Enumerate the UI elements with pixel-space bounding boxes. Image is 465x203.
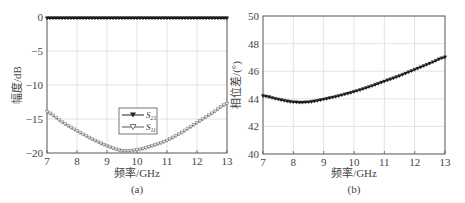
y-tick-label: 46 [248,65,260,77]
panel-a-x-axis-label: 频率/GHz [114,166,160,179]
x-tick-label: 8 [74,155,80,167]
y-tick-label: 48 [248,38,260,50]
x-tick-label: 13 [222,155,234,167]
panel-b-caption: (b) [348,183,361,196]
x-tick-label: 11 [379,156,390,168]
y-tick-label: −5 [31,45,43,57]
y-tick-label: −10 [26,79,44,91]
panel-a-x-tick-labels: 78910111213 [44,155,233,167]
x-tick-label: 8 [291,156,297,168]
panel-a-caption: (a) [131,183,144,196]
x-tick-label: 11 [162,155,173,167]
y-tick-label: 0 [38,11,44,23]
y-tick-label: 42 [248,120,259,132]
panel-a-y-tick-labels: 0−5−10−15−20 [26,11,44,159]
panel-a-magnitude-chart: 78910111213 0−5−10−15−20 频率/GHz (a) 幅度/d… [10,11,233,196]
y-tick-label: 50 [248,10,260,22]
x-tick-label: 9 [321,156,327,168]
figure: 78910111213 0−5−10−15−20 频率/GHz (a) 幅度/d… [0,0,465,203]
panel-b-y-tick-labels: 404244464850 [248,10,260,160]
x-tick-label: 7 [260,156,266,168]
x-tick-label: 7 [44,155,50,167]
y-tick-label: −20 [26,147,44,159]
y-tick-label: −15 [26,113,44,125]
panel-b-y-axis-label: 相位差/(°) [229,61,243,109]
panel-b-grid [263,16,445,154]
x-tick-label: 12 [192,155,203,167]
panel-a-legend: S21 S11 [119,108,157,134]
x-tick-label: 9 [104,155,110,167]
panel-a-y-axis-label: 幅度/dB [10,66,23,104]
y-tick-label: 44 [248,93,260,105]
y-tick-label: 40 [248,148,260,160]
x-tick-label: 12 [409,156,420,168]
panel-b-x-axis-label: 频率/GHz [331,166,377,179]
panel-b-phase-chart: 78910111213 404244464850 频率/GHz (b) 相位差/… [229,10,451,196]
x-tick-label: 13 [440,156,452,168]
x-tick-label: 10 [132,155,144,167]
